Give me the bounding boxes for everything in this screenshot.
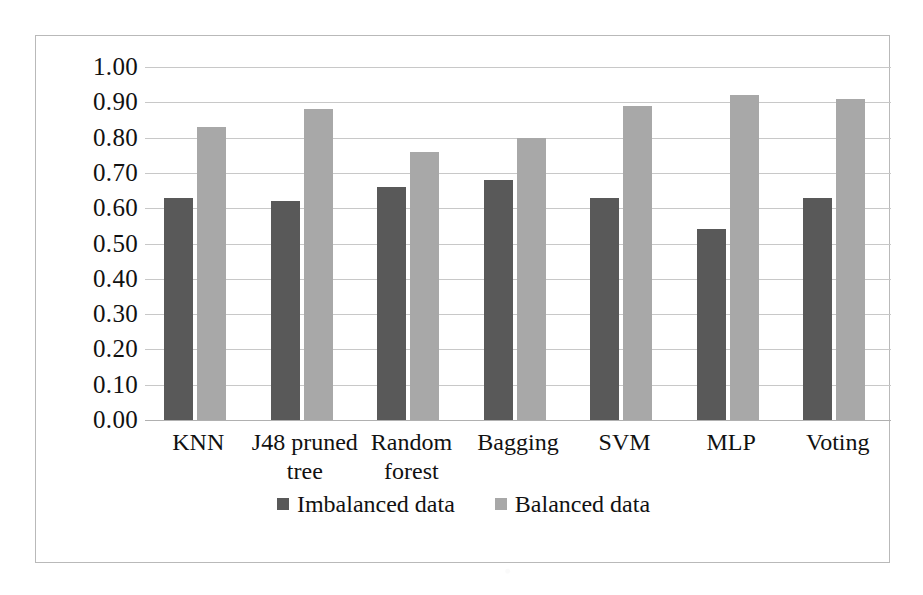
bar-group xyxy=(358,67,465,420)
bar[interactable] xyxy=(803,198,832,420)
bar[interactable] xyxy=(590,198,619,420)
y-axis: 1.000.900.800.700.600.500.400.300.200.10… xyxy=(66,67,138,420)
x-axis-tick-label: SVM xyxy=(571,428,678,457)
bar-group xyxy=(252,67,359,420)
y-axis-tick-label: 0.30 xyxy=(68,301,138,326)
y-axis-tick-label: 0.50 xyxy=(68,231,138,256)
x-axis-tick-label: MLP xyxy=(678,428,785,457)
chart-legend: Imbalanced dataBalanced data xyxy=(36,491,891,517)
legend-label: Balanced data xyxy=(515,491,650,517)
bar-group xyxy=(784,67,891,420)
y-axis-tick-label: 1.00 xyxy=(68,54,138,79)
legend-item[interactable]: Balanced data xyxy=(495,491,650,517)
bar[interactable] xyxy=(623,106,652,420)
bar-group xyxy=(678,67,785,420)
y-axis-tick-label: 0.20 xyxy=(68,336,138,361)
x-axis-tick-label: Bagging xyxy=(465,428,572,457)
x-axis-tick-label: Voting xyxy=(784,428,891,457)
bar[interactable] xyxy=(197,127,226,420)
x-axis-tick-label: Random forest xyxy=(358,428,465,486)
bar[interactable] xyxy=(484,180,513,420)
bar-group xyxy=(145,67,252,420)
chart-frame: 1.000.900.800.700.600.500.400.300.200.10… xyxy=(35,35,890,563)
bar[interactable] xyxy=(730,95,759,420)
y-axis-tick-label: 0.90 xyxy=(68,89,138,114)
bar[interactable] xyxy=(377,187,406,420)
legend-square-marker-icon xyxy=(495,498,507,510)
y-axis-tick-label: 0.10 xyxy=(68,372,138,397)
y-axis-tick-label: 0.40 xyxy=(68,266,138,291)
legend-label: Imbalanced data xyxy=(297,491,455,517)
bar[interactable] xyxy=(304,109,333,420)
x-axis-tick-label: KNN xyxy=(145,428,252,457)
bar[interactable] xyxy=(164,198,193,420)
bar[interactable] xyxy=(410,152,439,420)
bar-group xyxy=(571,67,678,420)
y-axis-tick-label: 0.00 xyxy=(68,407,138,432)
y-axis-tick-label: 0.80 xyxy=(68,125,138,150)
bar-group xyxy=(465,67,572,420)
gridline xyxy=(145,420,891,421)
legend-square-marker-icon xyxy=(277,498,289,510)
bar[interactable] xyxy=(697,229,726,420)
y-axis-tick-label: 0.60 xyxy=(68,195,138,220)
legend-item[interactable]: Imbalanced data xyxy=(277,491,455,517)
bar[interactable] xyxy=(517,138,546,420)
y-axis-tick-label: 0.70 xyxy=(68,160,138,185)
bar[interactable] xyxy=(271,201,300,420)
bars-layer xyxy=(145,67,891,420)
bar[interactable] xyxy=(836,99,865,420)
x-axis-tick-label: J48 pruned tree xyxy=(252,428,359,486)
